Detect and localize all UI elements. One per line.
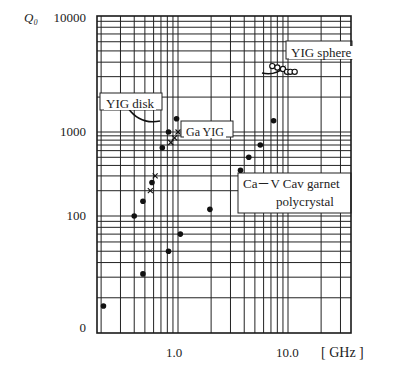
data-point	[258, 142, 264, 148]
x-tick-label: 10.0	[276, 346, 299, 359]
data-point	[178, 231, 184, 237]
data-point	[238, 167, 244, 173]
data-point-open	[292, 69, 297, 74]
y-tick-label: 0	[26, 321, 86, 334]
data-point	[271, 118, 277, 124]
data-point	[101, 303, 107, 309]
grid	[97, 16, 352, 333]
data-point	[140, 198, 146, 204]
data-point-open	[270, 63, 275, 68]
label-cav-garnet: Ca－V Cav garnet	[241, 177, 342, 190]
data-point	[174, 116, 180, 122]
label-yig-sphere: YIG sphere	[289, 46, 353, 59]
x-tick-label: 1.0	[166, 346, 182, 359]
y-tick-label: 100	[26, 209, 86, 222]
data-point	[166, 129, 172, 135]
data-point	[140, 271, 146, 277]
data-point	[207, 207, 213, 213]
data-point	[131, 213, 137, 219]
label-ga-yig: Ga YIG	[184, 126, 226, 138]
y-tick-label: 1000	[26, 125, 86, 138]
x-axis-unit: [ GHz ]	[321, 346, 364, 360]
data-point	[149, 180, 155, 186]
label-yig-disk: YIG disk	[104, 97, 156, 110]
data-point	[166, 248, 172, 254]
data-point	[160, 145, 166, 151]
label-polycrystal: polycrystal	[274, 195, 336, 208]
data-point-open	[275, 65, 280, 70]
data-point	[246, 154, 252, 160]
y-tick-label: 10000	[26, 11, 86, 24]
